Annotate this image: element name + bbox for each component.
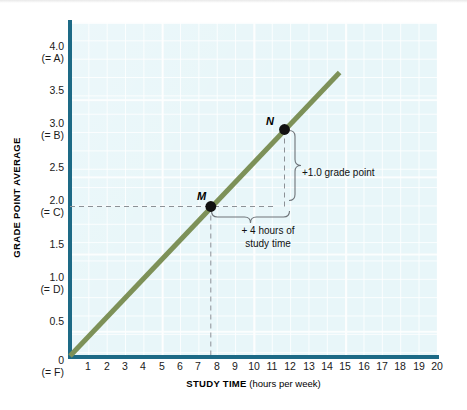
y-tick-3.0-value: 3.0 [49,117,64,129]
y-tick-0: 0 (= F) [10,355,64,378]
y-tick-0.5: 0.5 [10,316,64,328]
y-tick-2.0-value: 2.0 [49,194,64,206]
y-tick-2.5-value: 2.5 [49,161,64,173]
point-label-m: M [197,190,206,202]
y-tick-1.5-value: 1.5 [49,238,64,250]
annotation-rise: +1.0 grade point [302,167,375,180]
y-axis-title: GRADE POINT AVERAGE [11,108,22,288]
y-tick-0-grade: (= F) [10,367,64,379]
x-axis-title-unit: (hours per week) [249,378,320,389]
annotation-run-line1: + 4 hours of [241,225,294,236]
x-axis-title: STUDY TIME (hours per week) [70,378,437,389]
data-line [70,73,340,357]
x-axis-title-main: STUDY TIME [186,378,246,389]
y-tick-4.0-value: 4.0 [49,40,64,52]
brace-rise [289,131,301,201]
point-label-n: N [266,115,274,127]
annotation-run-line2: study time [245,238,291,249]
brace-run [212,211,290,223]
y-tick-4.0: 4.0 (= A) [10,41,64,64]
y-tick-0-value: 0 [58,354,64,366]
y-tick-3.5-value: 3.5 [49,84,64,96]
plot-overlay [0,0,467,410]
annotation-run: + 4 hours of study time [213,225,323,250]
y-tick-0.5-value: 0.5 [49,315,64,327]
chart-figure: 4.0 (= A) 3.5 3.0 (= B) 2.5 2.0 (= C) 1.… [0,0,467,410]
y-tick-1.0-value: 1.0 [49,271,64,283]
x-tick-20: 20 [425,360,449,372]
data-point-m[interactable] [205,201,216,212]
y-tick-4.0-grade: (= A) [10,53,64,65]
y-tick-3.5: 3.5 [10,85,64,97]
data-point-n[interactable] [279,124,290,135]
